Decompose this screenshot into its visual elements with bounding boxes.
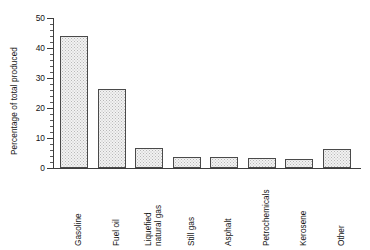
- y-tick-label: 0: [40, 164, 45, 172]
- bar: [210, 157, 238, 168]
- bar: [135, 148, 163, 168]
- bar: [248, 158, 276, 168]
- y-tick-label: 30: [36, 74, 45, 82]
- bar: [323, 149, 351, 169]
- bar: [98, 89, 126, 169]
- bar: [173, 157, 201, 168]
- plot-area: 01020304050: [53, 18, 361, 169]
- bar-chart: Percentage of total produced 01020304050…: [0, 0, 370, 250]
- bar: [285, 159, 313, 168]
- y-tick-label: 50: [36, 14, 45, 22]
- y-tick-label: 20: [36, 104, 45, 112]
- y-tick-label: 10: [36, 134, 45, 142]
- bar-series: [53, 18, 361, 169]
- x-axis-labels: GasolineFuel oilLiquefiednatural gasStil…: [53, 172, 361, 250]
- y-tick-label: 40: [36, 44, 45, 52]
- y-axis-title: Percentage of total produced: [8, 16, 22, 186]
- bar: [60, 36, 88, 168]
